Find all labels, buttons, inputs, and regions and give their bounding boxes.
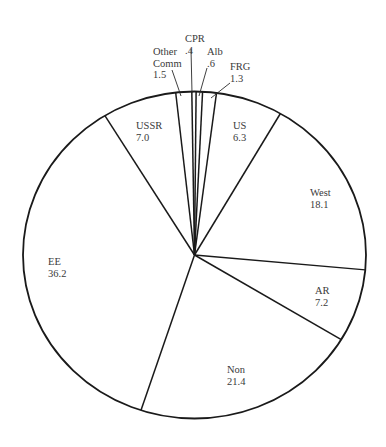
leader-line xyxy=(191,49,192,93)
slice-label-non: Non21.4 xyxy=(227,364,246,387)
slice-label-cpr: CPR.4 xyxy=(185,33,205,56)
slice-label-us: US6.3 xyxy=(233,120,247,143)
slice-label-other-comm: OtherComm1.5 xyxy=(153,46,182,80)
slice-label-ar: AR7.2 xyxy=(315,285,330,308)
slice-label-west: West18.1 xyxy=(310,187,331,210)
pie-chart: OtherComm1.5CPR.4Alb.6FRG1.3US6.3West18.… xyxy=(0,0,386,447)
slice-label-alb: Alb.6 xyxy=(207,46,223,69)
slice-label-frg: FRG1.3 xyxy=(230,61,251,84)
